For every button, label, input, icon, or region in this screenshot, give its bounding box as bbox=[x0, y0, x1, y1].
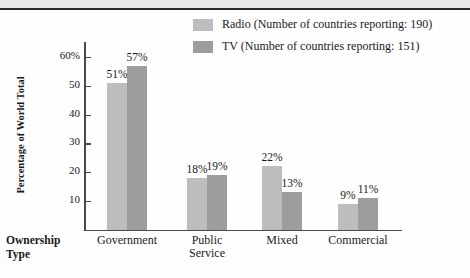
bar-tv-1 bbox=[207, 175, 227, 230]
bar-label-tv-3: 11% bbox=[353, 183, 383, 195]
bar-tv-0 bbox=[127, 66, 147, 230]
legend-item-tv: TV (Number of countries reporting: 151) bbox=[193, 37, 432, 56]
legend: Radio (Number of countries reporting: 19… bbox=[193, 15, 432, 59]
legend-label-tv: TV (Number of countries reporting: 151) bbox=[222, 39, 419, 54]
legend-label-radio: Radio (Number of countries reporting: 19… bbox=[222, 17, 432, 32]
bar-radio-0 bbox=[107, 83, 127, 230]
legend-swatch-tv bbox=[193, 41, 213, 53]
bar-radio-2 bbox=[262, 166, 282, 229]
legend-item-radio: Radio (Number of countries reporting: 19… bbox=[193, 15, 432, 34]
bar-radio-3 bbox=[338, 204, 358, 230]
chart-page: Percentage of World Total 60%5040302010 … bbox=[0, 0, 470, 278]
bar-label-tv-0: 57% bbox=[122, 51, 152, 63]
bar-tv-2 bbox=[282, 192, 302, 229]
bar-label-tv-2: 13% bbox=[277, 177, 307, 189]
bar-tv-3 bbox=[358, 198, 378, 230]
bar-label-tv-1: 19% bbox=[202, 160, 232, 172]
bar-label-radio-2: 22% bbox=[257, 151, 287, 163]
legend-swatch-radio bbox=[193, 19, 213, 31]
bar-radio-1 bbox=[187, 178, 207, 230]
x-axis-title: Ownership Type bbox=[6, 234, 82, 261]
x-category-label-3: Commercial bbox=[308, 234, 408, 247]
